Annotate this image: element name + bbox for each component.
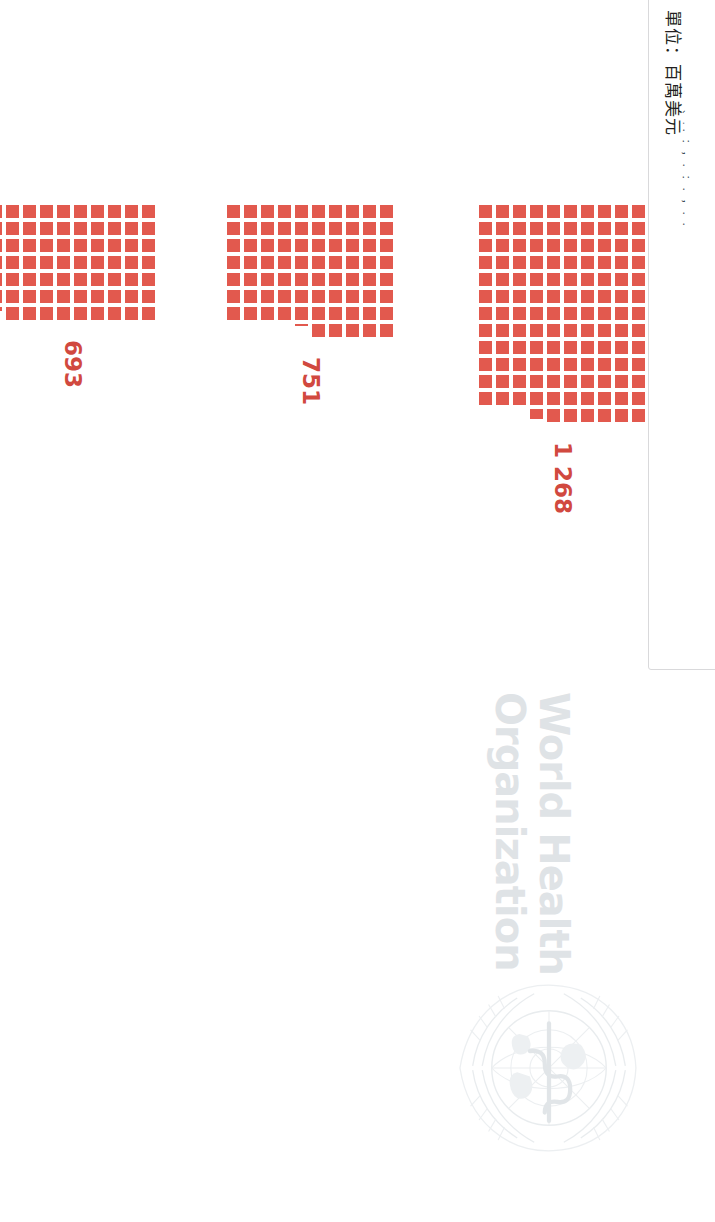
- waffle-cell: [513, 239, 526, 252]
- waffle-cell: [564, 341, 577, 354]
- waffle-cell: [142, 273, 155, 286]
- waffle-cell: [363, 307, 376, 320]
- waffle-cell: [261, 222, 274, 235]
- waffle-cell: [380, 222, 393, 235]
- waffle-cell: [598, 273, 611, 286]
- waffle-cell: [91, 205, 104, 218]
- waffle-cell: [23, 307, 36, 320]
- waffle-cell: [632, 205, 645, 218]
- waffle-cell: [564, 273, 577, 286]
- waffle-cell: [108, 273, 121, 286]
- waffle-cell: [142, 307, 155, 320]
- waffle-row: [0, 205, 2, 320]
- waffle-cell: [244, 307, 257, 320]
- waffle-row: [23, 205, 36, 320]
- waffle-grid: [479, 205, 645, 422]
- waffle-cell: [564, 409, 577, 422]
- waffle-cell: [227, 239, 240, 252]
- waffle-cell: [0, 239, 2, 252]
- waffle-cell: [598, 341, 611, 354]
- waffle-cell: [581, 273, 594, 286]
- waffle-cell: [227, 256, 240, 269]
- waffle-cell: [74, 239, 87, 252]
- waffle-row: [312, 205, 325, 337]
- waffle-cell: [74, 256, 87, 269]
- waffle-row: [261, 205, 274, 337]
- waffle-cell: [74, 205, 87, 218]
- pictogram-chart: World Health Organization: [0, 0, 715, 1222]
- who-emblem-icon: [443, 962, 655, 1174]
- waffle-cell: [108, 239, 121, 252]
- waffle-cell: [496, 205, 509, 218]
- waffle-cell: [91, 290, 104, 303]
- waffle-cell: [513, 256, 526, 269]
- waffle-cell: [598, 290, 611, 303]
- waffle-cell: [530, 324, 543, 337]
- waffle-cell: [479, 307, 492, 320]
- waffle-cell: [6, 222, 19, 235]
- waffle-cell: [0, 222, 2, 235]
- waffle-cell: [363, 256, 376, 269]
- waffle-cell: [261, 307, 274, 320]
- waffle-cell: [479, 358, 492, 371]
- waffle-cell: [244, 205, 257, 218]
- waffle-cell: [479, 273, 492, 286]
- waffle-cell: [615, 205, 628, 218]
- waffle-cell: [564, 222, 577, 235]
- waffle-cell: [513, 307, 526, 320]
- waffle-row: [380, 205, 393, 337]
- waffle-cell: [346, 222, 359, 235]
- waffle-cell: [91, 307, 104, 320]
- waffle-cell: [0, 273, 2, 286]
- waffle-cell: [530, 239, 543, 252]
- waffle-cell: [479, 392, 492, 405]
- waffle-cell: [40, 222, 53, 235]
- waffle-cell: [295, 205, 308, 218]
- waffle-cell: [496, 307, 509, 320]
- waffle-cell: [278, 307, 291, 320]
- waffle-cell: [40, 273, 53, 286]
- waffle-cell: [278, 205, 291, 218]
- waffle-grid: [0, 205, 155, 320]
- waffle-cell: [632, 392, 645, 405]
- waffle-row: [346, 205, 359, 337]
- waffle-cell: [312, 307, 325, 320]
- waffle-cell: [496, 341, 509, 354]
- waffle-cell: [632, 375, 645, 388]
- waffle-cell: [125, 205, 138, 218]
- waffle-cell: [598, 392, 611, 405]
- waffle-cell: [530, 290, 543, 303]
- waffle-cell: [346, 324, 359, 337]
- waffle-cell: [108, 205, 121, 218]
- waffle-cell: [496, 256, 509, 269]
- waffle-cell: [346, 256, 359, 269]
- waffle-cell: [329, 239, 342, 252]
- waffle-cell: [244, 290, 257, 303]
- waffle-cell: [581, 222, 594, 235]
- waffle-cell: [564, 290, 577, 303]
- waffle-cell: [598, 256, 611, 269]
- waffle-cell: [547, 290, 560, 303]
- waffle-cell: [479, 290, 492, 303]
- waffle-cell: [142, 256, 155, 269]
- waffle-cell: [547, 205, 560, 218]
- waffle-cell: [598, 205, 611, 218]
- unit-label: 單位：百萬美元: [662, 10, 687, 136]
- waffle-cell: [547, 375, 560, 388]
- waffle-cell: [363, 222, 376, 235]
- waffle-cell: [564, 256, 577, 269]
- waffle-cell: [0, 290, 2, 303]
- waffle-cell: [598, 324, 611, 337]
- waffle-cell: [380, 205, 393, 218]
- waffle-cell: [74, 273, 87, 286]
- waffle-cell: [615, 358, 628, 371]
- waffle-cell: [632, 256, 645, 269]
- waffle-cell: [513, 273, 526, 286]
- waffle-cell: [227, 307, 240, 320]
- waffle-cell: [380, 273, 393, 286]
- waffle-cell: [632, 358, 645, 371]
- waffle-cell: [74, 222, 87, 235]
- waffle-cell: [615, 375, 628, 388]
- waffle-cell: [530, 273, 543, 286]
- waffle-cell: [363, 205, 376, 218]
